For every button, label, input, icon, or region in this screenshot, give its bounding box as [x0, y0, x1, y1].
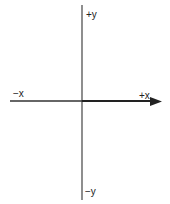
label-pos-y: +y — [86, 10, 97, 20]
label-neg-y: −y — [85, 187, 96, 197]
axes-diagram — [0, 0, 170, 204]
arrow-right-icon — [150, 97, 162, 106]
label-pos-x: +x — [139, 91, 150, 101]
label-neg-x: −x — [13, 89, 24, 99]
